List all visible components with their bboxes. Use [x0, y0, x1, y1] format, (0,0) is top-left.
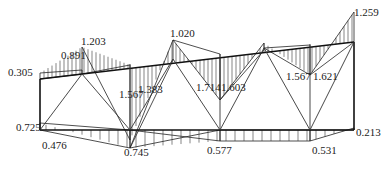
label-top-left-end: 0.305 — [8, 66, 33, 78]
label-bottom-right-end: 0.213 — [356, 126, 381, 138]
label-top-node2: 1.020 — [170, 27, 195, 39]
label-top-panel1-a: 0.891 — [61, 49, 86, 61]
label-top-panel1-b: 1.203 — [81, 35, 106, 47]
diagonal-1 — [40, 74, 82, 130]
label-sag3-right: 1.621 — [313, 70, 338, 82]
label-sag2-left: 1.714 — [196, 81, 221, 93]
label-bottom-node3: 0.577 — [207, 144, 232, 156]
bottom-chord-moment-diagram — [40, 123, 354, 148]
label-sag1-right: 1.383 — [138, 83, 163, 95]
label-sag3-left: 1.567 — [286, 70, 311, 82]
truss-moment-diagram: 0.305 0.891 1.203 1.020 1.259 1.567 1.38… — [0, 0, 385, 169]
label-sag2-right: 1.603 — [221, 81, 246, 93]
moment-bottom-span3 — [220, 130, 310, 141]
label-bottom-node2: 0.745 — [124, 146, 149, 158]
label-top-node-right: 1.259 — [354, 6, 379, 18]
label-bottom-left-end: 0.725 — [16, 121, 41, 133]
label-bottom-node4: 0.531 — [312, 144, 337, 156]
label-bottom-node1: 0.476 — [42, 139, 67, 151]
